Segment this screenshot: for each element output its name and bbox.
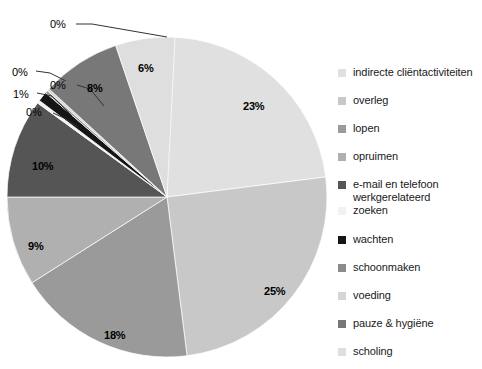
slice-value-label: 25% (264, 285, 285, 297)
slice-value-label: 8% (87, 82, 103, 94)
legend-item[interactable]: pauze & hygiëne (338, 317, 433, 330)
legend-swatch-icon (338, 348, 346, 356)
callout-value-label: 0% (50, 79, 66, 91)
legend-swatch-icon (338, 97, 346, 105)
legend-item[interactable]: e-mail en telefoon werkgerelateerd (338, 178, 439, 204)
legend-swatch-icon (338, 69, 346, 77)
callout-value-label: 0% (26, 106, 42, 118)
chart-plot-area: 23%25%18%9%10%8%6% 0%0%0%1%0% (0, 0, 334, 369)
legend-item-label: overleg (353, 94, 388, 107)
legend-item-label: voeding (353, 289, 391, 302)
slice-value-label: 6% (138, 62, 154, 74)
legend-item[interactable]: scholing (338, 345, 393, 358)
legend-item-label: scholing (353, 345, 393, 358)
legend-swatch-icon (338, 320, 346, 328)
legend-item[interactable]: wachten (338, 233, 393, 246)
leader-line-scholing (76, 24, 167, 37)
legend-item[interactable]: lopen (338, 122, 379, 135)
pie-svg (0, 0, 334, 369)
legend-item[interactable]: schoonmaken (338, 261, 420, 274)
legend-swatch-icon (338, 181, 346, 189)
legend-swatch-icon (338, 125, 346, 133)
legend-item-label: schoonmaken (353, 261, 420, 274)
legend-swatch-icon (338, 153, 346, 161)
legend-item[interactable]: opruimen (338, 150, 398, 163)
legend-item-label: e-mail en telefoon werkgerelateerd (353, 178, 439, 204)
legend-item[interactable]: overleg (338, 94, 388, 107)
slice-value-label: 23% (243, 100, 264, 112)
legend-item-label: lopen (353, 122, 379, 135)
legend-item[interactable]: zoeken (338, 204, 388, 217)
callout-value-label: 0% (50, 18, 66, 30)
legend-swatch-icon (338, 207, 346, 215)
legend-item-label: opruimen (353, 150, 398, 163)
callout-value-label: 1% (13, 88, 29, 100)
pie-chart-figure: 23%25%18%9%10%8%6% 0%0%0%1%0% indirecte … (0, 0, 482, 369)
slice-value-label: 10% (32, 160, 53, 172)
pie-slice[interactable] (167, 177, 327, 356)
legend-swatch-icon (338, 236, 346, 244)
callout-value-label: 0% (12, 66, 28, 78)
legend-item[interactable]: voeding (338, 289, 391, 302)
legend-item-label: wachten (353, 233, 393, 246)
legend-item-label: pauze & hygiëne (353, 317, 433, 330)
legend-swatch-icon (338, 264, 346, 272)
pie-slice[interactable] (167, 37, 326, 197)
legend-item-label: indirecte cliëntactiviteiten (353, 66, 472, 79)
legend-item[interactable]: indirecte cliëntactiviteiten (338, 66, 472, 79)
slice-value-label: 18% (104, 329, 125, 341)
legend-swatch-icon (338, 292, 346, 300)
slice-value-label: 9% (28, 240, 44, 252)
legend-item-label: zoeken (353, 204, 388, 217)
